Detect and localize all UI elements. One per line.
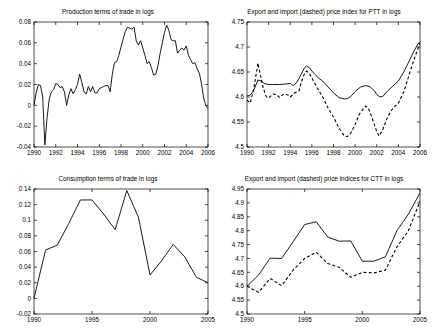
y-tick-label: 4.6 (235, 93, 244, 100)
y-tick-label: 0.04 (19, 60, 32, 67)
x-tick-label: 2006 (413, 149, 428, 156)
y-tick-label: 4.85 (232, 213, 245, 220)
y-tick-label: 0 (27, 295, 31, 302)
x-tick-label: 2002 (157, 149, 172, 156)
y-tick-label: 0.02 (19, 279, 32, 286)
x-tick-label: 2004 (391, 149, 406, 156)
x-tick-label: 2000 (348, 149, 363, 156)
series-line-solid (247, 193, 420, 286)
y-tick-label: 4.7 (235, 255, 244, 262)
x-tick-label: 2000 (136, 149, 151, 156)
y-tick-label: 0.06 (19, 248, 32, 255)
x-tick-label: 2005 (413, 316, 428, 323)
x-tick-label: 1990 (240, 149, 255, 156)
x-tick-label: 2004 (179, 149, 194, 156)
panel-title: Production terms of trade in logs (0, 8, 216, 16)
plot-area-production-terms-of-trade: -0.04-0.0200.020.040.060.081990199219941… (0, 2, 216, 167)
x-tick-label: 1996 (92, 149, 107, 156)
y-tick-label: 0.02 (19, 81, 32, 88)
y-tick-label: 0.04 (19, 263, 32, 270)
y-tick-label: 4.55 (232, 296, 245, 303)
x-tick-label: 2005 (201, 316, 216, 323)
y-tick-label: 4.75 (232, 18, 245, 25)
plot-area-ctt-price-indices: 4.54.554.64.654.74.754.84.854.94.9519901… (216, 169, 432, 334)
y-tick-label: 4.65 (232, 269, 245, 276)
x-tick-label: 1998 (114, 149, 129, 156)
x-tick-label: 2000 (355, 316, 370, 323)
series-line-solid (34, 191, 208, 299)
chart-panel-ctt-price-indices: Export and import (dashed) price indices… (216, 169, 432, 334)
chart-panel-production-terms-of-trade: Production terms of trade in logs -0.04-… (0, 2, 216, 167)
y-tick-label: 0.1 (22, 216, 31, 223)
series-line-solid (247, 42, 420, 100)
y-tick-label: 4.9 (235, 199, 244, 206)
x-tick-label: 1990 (27, 316, 42, 323)
x-tick-label: 1995 (298, 316, 313, 323)
series-line-dashed (247, 43, 420, 137)
x-tick-label: 1996 (305, 149, 320, 156)
x-tick-label: 1990 (240, 316, 255, 323)
y-tick-label: 4.65 (232, 68, 245, 75)
y-tick-label: 4.95 (232, 185, 245, 192)
series-line-solid (34, 25, 208, 145)
x-tick-label: 1994 (70, 149, 85, 156)
panel-title: Consumption terms of trade in logs (0, 175, 216, 183)
y-tick-label: 4.55 (232, 118, 245, 125)
y-tick-label: 4.8 (235, 227, 244, 234)
panel-title: Export and import (dashed) price index f… (216, 8, 432, 16)
y-tick-label: 0.06 (19, 39, 32, 46)
plot-area-consumption-terms-of-trade: -0.0200.020.040.060.080.10.120.141990199… (0, 169, 216, 334)
y-tick-label: 0.14 (19, 185, 32, 192)
figure-canvas: Production terms of trade in logs -0.04-… (0, 0, 432, 334)
chart-panel-ptt-price-index: Export and import (dashed) price index f… (216, 2, 432, 167)
y-tick-label: 4.6 (235, 282, 244, 289)
y-tick-label: -0.02 (17, 122, 32, 129)
plot-area-ptt-price-index: 4.54.554.64.654.74.751990199219941996199… (216, 2, 432, 167)
x-tick-label: 1992 (49, 149, 64, 156)
x-tick-label: 2006 (201, 149, 216, 156)
x-tick-label: 2002 (370, 149, 385, 156)
x-tick-label: 2000 (143, 316, 158, 323)
y-tick-label: 0 (27, 102, 31, 109)
x-tick-label: 1994 (283, 149, 298, 156)
y-tick-label: 0.08 (19, 18, 32, 25)
y-tick-label: 0.12 (19, 201, 32, 208)
x-tick-label: 1995 (85, 316, 100, 323)
x-tick-label: 1998 (326, 149, 341, 156)
y-tick-label: 0.08 (19, 232, 32, 239)
x-tick-label: 1990 (27, 149, 42, 156)
chart-panel-consumption-terms-of-trade: Consumption terms of trade in logs -0.02… (0, 169, 216, 334)
y-tick-label: 4.7 (235, 43, 244, 50)
y-tick-label: 4.75 (232, 241, 245, 248)
x-tick-label: 1992 (262, 149, 277, 156)
panel-title: Export and import (dashed) price indices… (216, 175, 432, 183)
series-line-dashed (247, 201, 420, 292)
